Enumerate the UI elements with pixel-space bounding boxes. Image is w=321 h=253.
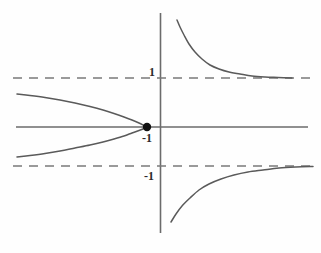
- tick-label-upper-asymptote: 1: [149, 66, 155, 78]
- graph-figure: 1 -1 -1: [0, 0, 321, 253]
- vertex-point-marker: [143, 123, 151, 131]
- tick-label-lower-asymptote: -1: [144, 170, 154, 182]
- plot-canvas: [0, 0, 321, 253]
- tick-label-vertex-point: -1: [142, 132, 152, 144]
